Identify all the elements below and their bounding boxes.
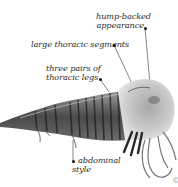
leader-dot-segments	[113, 44, 116, 47]
leader-line-legs	[100, 79, 109, 92]
leader-dot-style	[72, 160, 75, 163]
label-hump-backed: hump-backed appearance	[96, 12, 144, 30]
label-legs-line2: thoracic legs	[46, 73, 98, 82]
label-thoracic-legs: three pairs of thoracic legs	[46, 64, 98, 82]
copyright-mark: ©	[172, 176, 178, 185]
leader-dot-legs	[99, 78, 102, 81]
leader-dot-hump	[144, 27, 147, 30]
label-style-line2: style	[72, 165, 121, 174]
leader-line-hump	[145, 28, 150, 84]
label-hump-line2: appearance	[96, 21, 144, 30]
specimen-diagram: hump-backed appearance large thoracic se…	[0, 0, 178, 187]
label-abdominal-style: abdominal style	[72, 156, 121, 174]
